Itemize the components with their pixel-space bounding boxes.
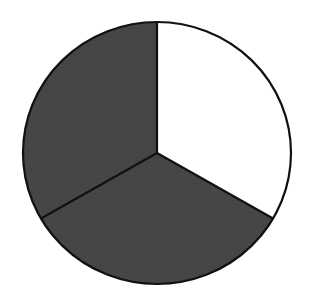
fraction-circle-diagram	[0, 0, 311, 295]
